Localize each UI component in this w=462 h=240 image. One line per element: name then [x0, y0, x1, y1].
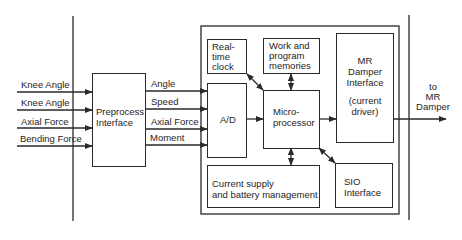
output-label: Damper: [411, 102, 455, 113]
signal-label: Moment: [150, 133, 184, 144]
block-label: SIO: [344, 177, 360, 188]
block-label: memories: [269, 61, 311, 72]
input-label: Knee Angle: [21, 80, 70, 91]
signal-label: Speed: [151, 97, 178, 108]
preprocess-interface-block: Preprocess Interface: [92, 73, 146, 167]
block-label: clock: [212, 62, 234, 73]
cpu-sio-arrow: [319, 148, 335, 163]
real-time-clock-block: Real- time clock: [207, 39, 247, 74]
input-label: Bending Force: [20, 134, 82, 145]
signal-label: Axial Force: [151, 117, 199, 128]
memory-block: Work and program memories: [263, 38, 320, 74]
block-label: A/D: [220, 115, 236, 126]
block-label: Damper: [337, 67, 393, 78]
input-label: Knee Angle: [21, 98, 70, 109]
block-label: MR: [337, 56, 393, 67]
block-label: (current: [337, 96, 393, 107]
block-label: processor: [273, 118, 315, 129]
microprocessor-block: Micro- processor: [263, 90, 320, 149]
block-label: and battery management: [212, 190, 318, 201]
power-management-block: Current supply and battery management: [207, 165, 320, 208]
input-label: Axial Force: [21, 117, 69, 128]
adc-block: A/D: [207, 83, 247, 158]
block-label: Interface: [344, 188, 381, 199]
block-label: Interface: [337, 78, 393, 89]
signal-label: Angle: [151, 79, 175, 90]
block-label: Current supply: [212, 179, 274, 190]
mr-damper-interface-block: MR Damper Interface (current driver): [336, 33, 394, 143]
block-label: Micro-: [273, 107, 299, 118]
block-label: Preprocess: [96, 107, 144, 118]
block-label: driver): [337, 107, 393, 118]
rtc-cpu-arrow: [247, 74, 263, 90]
sio-interface-block: SIO Interface: [335, 163, 393, 208]
block-label: Interface: [96, 118, 133, 129]
